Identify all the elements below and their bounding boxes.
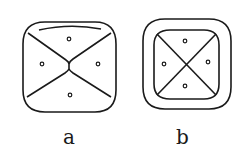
figure-b-dot-top [183, 39, 187, 43]
diagram-canvas [0, 0, 246, 158]
figure-b-dot-bottom [183, 84, 187, 88]
figure-b-label: b [176, 127, 189, 147]
figure-a [23, 22, 116, 112]
figure-b-dot-right [206, 60, 210, 64]
figure-a-line-lower-left [27, 69, 69, 97]
figure-a-dot-left [40, 62, 44, 66]
figure-a-dot-bottom [68, 93, 72, 97]
figure-a-label: a [63, 127, 75, 147]
figure-b [143, 19, 231, 109]
figure-a-top-arc [39, 26, 101, 30]
figure-a-line-upper-right [69, 33, 111, 64]
figure-a-line-lower-right [69, 69, 111, 97]
figure-a-dot-top [67, 37, 71, 41]
figure-b-dot-left [162, 62, 166, 66]
figure-a-line-upper-left [28, 33, 69, 64]
figure-a-dot-right [96, 62, 100, 66]
